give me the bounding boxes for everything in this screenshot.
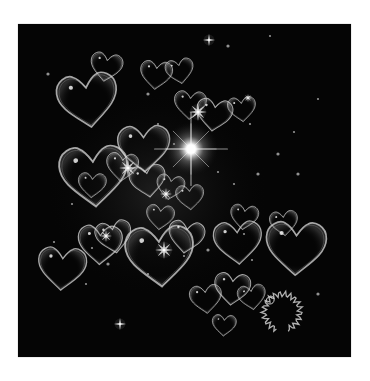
glitter-dot bbox=[206, 248, 209, 251]
glitter-dot bbox=[71, 203, 73, 205]
heart-bubbles-artwork bbox=[18, 24, 351, 357]
glitter-dot bbox=[256, 172, 259, 175]
glitter-dot bbox=[106, 262, 109, 265]
glitter-dot bbox=[53, 241, 55, 243]
glitter-dot bbox=[296, 172, 299, 175]
glitter-dot bbox=[317, 98, 319, 100]
glitter-dot bbox=[316, 292, 319, 295]
sparkle-star-icon bbox=[100, 230, 112, 242]
sparkle-star-icon bbox=[189, 103, 207, 121]
glitter-dot bbox=[226, 44, 229, 47]
glitter-dot bbox=[91, 247, 93, 249]
sparkle-star-icon bbox=[244, 94, 252, 102]
glitter-dot bbox=[243, 233, 245, 235]
glitter-dot bbox=[147, 273, 149, 275]
artwork-image: Dark square artwork of translucent heart… bbox=[18, 24, 351, 357]
glitter-dot bbox=[249, 123, 251, 125]
glitter-dot bbox=[85, 283, 87, 285]
glitter-dot bbox=[233, 183, 235, 185]
glitter-dot bbox=[217, 171, 219, 173]
glitter-dot bbox=[183, 255, 185, 257]
glitter-dot bbox=[251, 259, 253, 261]
glitter-dot bbox=[293, 131, 295, 133]
sparkle-star-icon bbox=[160, 188, 172, 200]
glitter-dot bbox=[46, 72, 49, 75]
glitter-dot bbox=[157, 123, 159, 125]
glitter-dot bbox=[276, 152, 279, 155]
glitter-dot bbox=[269, 35, 271, 37]
sparkle-star-icon bbox=[119, 159, 137, 177]
glitter-dot bbox=[146, 92, 149, 95]
sparkle-star-icon bbox=[155, 241, 173, 259]
